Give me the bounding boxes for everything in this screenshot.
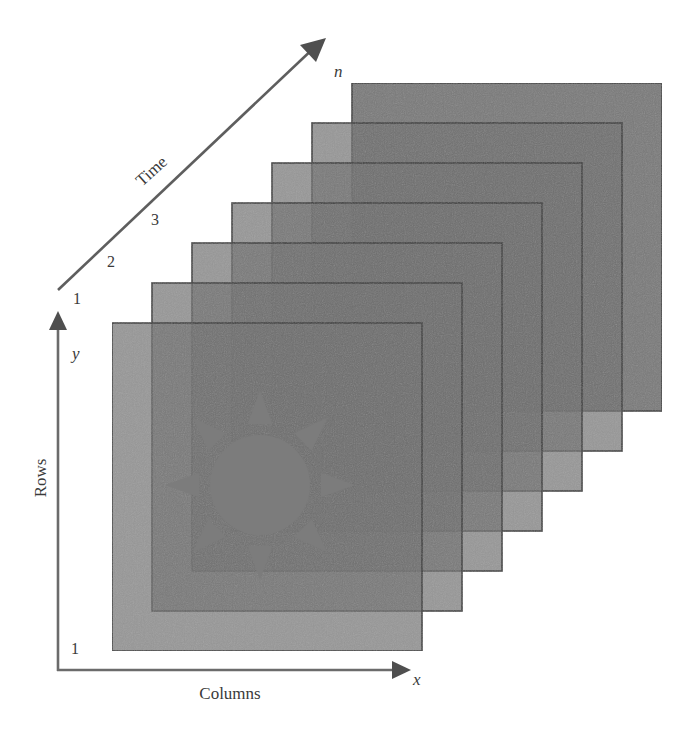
x-arrowhead-icon — [392, 661, 411, 679]
rows-axis-label: Rows — [31, 459, 50, 498]
y-axis-var-label: y — [70, 344, 80, 363]
y-arrowhead-icon — [49, 311, 67, 330]
sun-disc-icon — [210, 435, 310, 535]
time-tick-1: 1 — [73, 290, 81, 307]
sun-icon — [165, 390, 355, 580]
time-axis-end-label: n — [334, 62, 343, 81]
columns-axis: x Columns — [57, 661, 421, 703]
rows-origin-tick: 1 — [71, 640, 79, 657]
frame-stack — [112, 83, 662, 651]
rows-axis: y Rows 1 — [31, 311, 80, 671]
diagram-canvas: Time n 1 2 3 y Rows 1 x Columns — [0, 0, 698, 742]
columns-axis-label: Columns — [199, 684, 260, 703]
time-axis-label: Time — [132, 152, 171, 190]
time-tick-2: 2 — [107, 253, 115, 270]
x-axis-var-label: x — [412, 670, 421, 689]
image-sequence-diagram: Time n 1 2 3 y Rows 1 x Columns — [0, 0, 698, 742]
time-tick-3: 3 — [151, 211, 159, 228]
